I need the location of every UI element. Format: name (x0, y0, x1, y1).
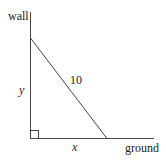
base-label: x (71, 140, 78, 154)
wall-label: wall (8, 9, 29, 23)
ground-label: ground (125, 141, 159, 155)
right-angle-marker (31, 131, 39, 139)
ladder-diagram: wall ground y x 10 (0, 0, 166, 164)
height-label: y (18, 83, 25, 97)
ladder-length-label: 10 (70, 73, 82, 87)
ladder-line (31, 38, 108, 139)
